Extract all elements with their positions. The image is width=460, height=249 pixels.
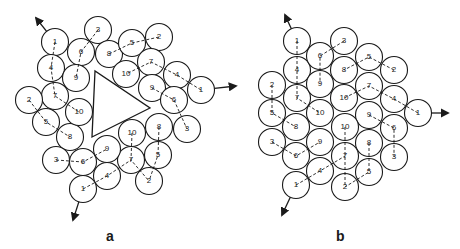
subunit-number: 7 [367, 81, 372, 90]
subunit-number: 6 [81, 157, 86, 166]
subunit-number: 8 [107, 49, 112, 58]
subunit-number: 10 [75, 107, 84, 116]
subunit-number: 3 [392, 152, 397, 161]
subunit-number: 9 [74, 73, 79, 82]
subunit-number: 6 [392, 123, 397, 132]
subunit-number: 4 [392, 94, 397, 103]
subunit-number: 7 [295, 93, 300, 102]
subunit-number: 4 [295, 65, 300, 74]
panel-a-diagram: 147369258108521074196381057236941 [16, 17, 237, 221]
subunit-number: 8 [294, 122, 299, 131]
subunit-number: 3 [96, 25, 101, 34]
subunit-number: 2 [392, 65, 397, 74]
figure-canvas: 147369258108521074196381057236941 147369… [0, 0, 460, 249]
subunit-number: 4 [49, 63, 54, 72]
subunit-number: 10 [128, 128, 137, 137]
subunit-number: 8 [342, 65, 347, 74]
subunit-number: 7 [53, 91, 58, 100]
subunit-number: 5 [270, 108, 275, 117]
subunit-number: 8 [68, 132, 73, 141]
subunit-number: 4 [105, 171, 110, 180]
subunit-number: 2 [157, 32, 162, 41]
subunit-number: 1 [81, 184, 86, 193]
subunit-number: 10 [316, 108, 325, 117]
direction-arrow-icon [282, 197, 290, 215]
subunit-number: 10 [122, 69, 131, 78]
subunit-number: 9 [105, 144, 110, 153]
subunit-number: 9 [367, 110, 372, 119]
subunit-number: 8 [157, 122, 162, 131]
subunit-number: 4 [318, 166, 323, 175]
direction-arrow-icon [36, 18, 47, 31]
subunit-number: 10 [340, 93, 349, 102]
panel-b-label: b [336, 228, 345, 244]
subunit-number: 1 [294, 180, 299, 189]
subunit-number: 2 [270, 80, 275, 89]
panel-a-label: a [106, 228, 114, 244]
subunit-number: 4 [175, 70, 180, 79]
subunit-number: 1 [53, 37, 58, 46]
subunit-number: 7 [343, 151, 348, 160]
direction-arrow-icon [214, 86, 236, 88]
subunit-number: 6 [79, 47, 84, 56]
subunit-number: 7 [129, 155, 134, 164]
subunit-number: 1 [199, 85, 204, 94]
subunit-number: 8 [367, 138, 372, 147]
subunit-number: 3 [270, 137, 275, 146]
subunit-number: 1 [416, 108, 421, 117]
subunit-number: 6 [318, 51, 323, 60]
subunit-number: 7 [149, 57, 154, 66]
subunit-number: 1 [295, 36, 300, 45]
direction-arrow-icon [73, 202, 79, 220]
subunit-number: 5 [130, 38, 135, 47]
subunit-number: 3 [54, 155, 59, 164]
subunit-number: 9 [318, 79, 323, 88]
direction-arrow-icon [285, 15, 291, 29]
subunit-number: 3 [342, 36, 347, 45]
panel-b-diagram: 147369258108521074196381057236941 [259, 15, 449, 215]
subunit-number: 9 [318, 137, 323, 146]
subunit-number: 5 [367, 52, 372, 61]
subunit-number: 2 [343, 182, 348, 191]
subunit-number: 2 [147, 176, 152, 185]
subunit-number: 3 [185, 124, 190, 133]
subunit-number: 6 [294, 151, 299, 160]
subunit-number: 2 [27, 95, 32, 104]
subunit-number: 5 [367, 167, 372, 176]
subunit-number: 10 [341, 122, 350, 131]
subunit-number: 5 [156, 150, 161, 159]
subunit-number: 5 [44, 117, 49, 126]
subunit-number: 6 [172, 95, 177, 104]
subunit-number: 9 [150, 83, 155, 92]
